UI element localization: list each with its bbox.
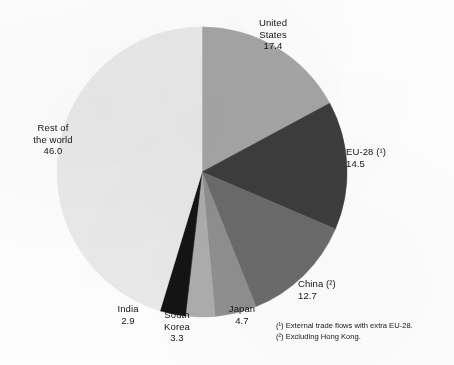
pie-label-china: China (²) 12.7 (298, 278, 378, 301)
pie-value-india: 2.9 (104, 315, 152, 327)
pie-chart-figure: United States 17.4 EU-28 (¹) 14.5 China … (0, 0, 454, 365)
pie-label-united-states-line1: United (236, 17, 310, 29)
pie-label-eu28-line1: EU-28 (¹) (346, 146, 424, 158)
footnote-1: (¹) External trade flows with extra EU-2… (276, 320, 452, 331)
pie-value-south-korea: 3.3 (150, 332, 204, 344)
pie-label-rest-line2: the world (10, 134, 96, 146)
pie-label-united-states: United States 17.4 (236, 17, 310, 52)
pie-label-south-korea-line1: South (150, 309, 204, 321)
pie-label-japan: Japan 4.7 (218, 303, 266, 326)
pie-label-japan-line1: Japan (218, 303, 266, 315)
pie-label-eu28: EU-28 (¹) 14.5 (346, 146, 424, 169)
pie-label-india-line1: India (104, 303, 152, 315)
pie-label-china-line1: China (²) (298, 278, 378, 290)
pie-value-rest-of-the-world: 46.0 (10, 145, 96, 157)
pie-label-india: India 2.9 (104, 303, 152, 326)
pie-value-united-states: 17.4 (236, 40, 310, 52)
footnote-2: (²) Excluding Hong Kong. (276, 331, 452, 342)
pie-value-eu28: 14.5 (346, 158, 424, 170)
footnotes: (¹) External trade flows with extra EU-2… (276, 320, 452, 342)
pie-label-south-korea-line2: Korea (150, 321, 204, 333)
pie-label-united-states-line2: States (236, 29, 310, 41)
pie-label-rest-of-the-world: Rest of the world 46.0 (10, 122, 96, 157)
pie-label-south-korea: South Korea 3.3 (150, 309, 204, 344)
pie-slice-group (57, 27, 347, 317)
pie-value-japan: 4.7 (218, 315, 266, 327)
pie-value-china: 12.7 (298, 290, 378, 302)
pie-label-rest-line1: Rest of (10, 122, 96, 134)
